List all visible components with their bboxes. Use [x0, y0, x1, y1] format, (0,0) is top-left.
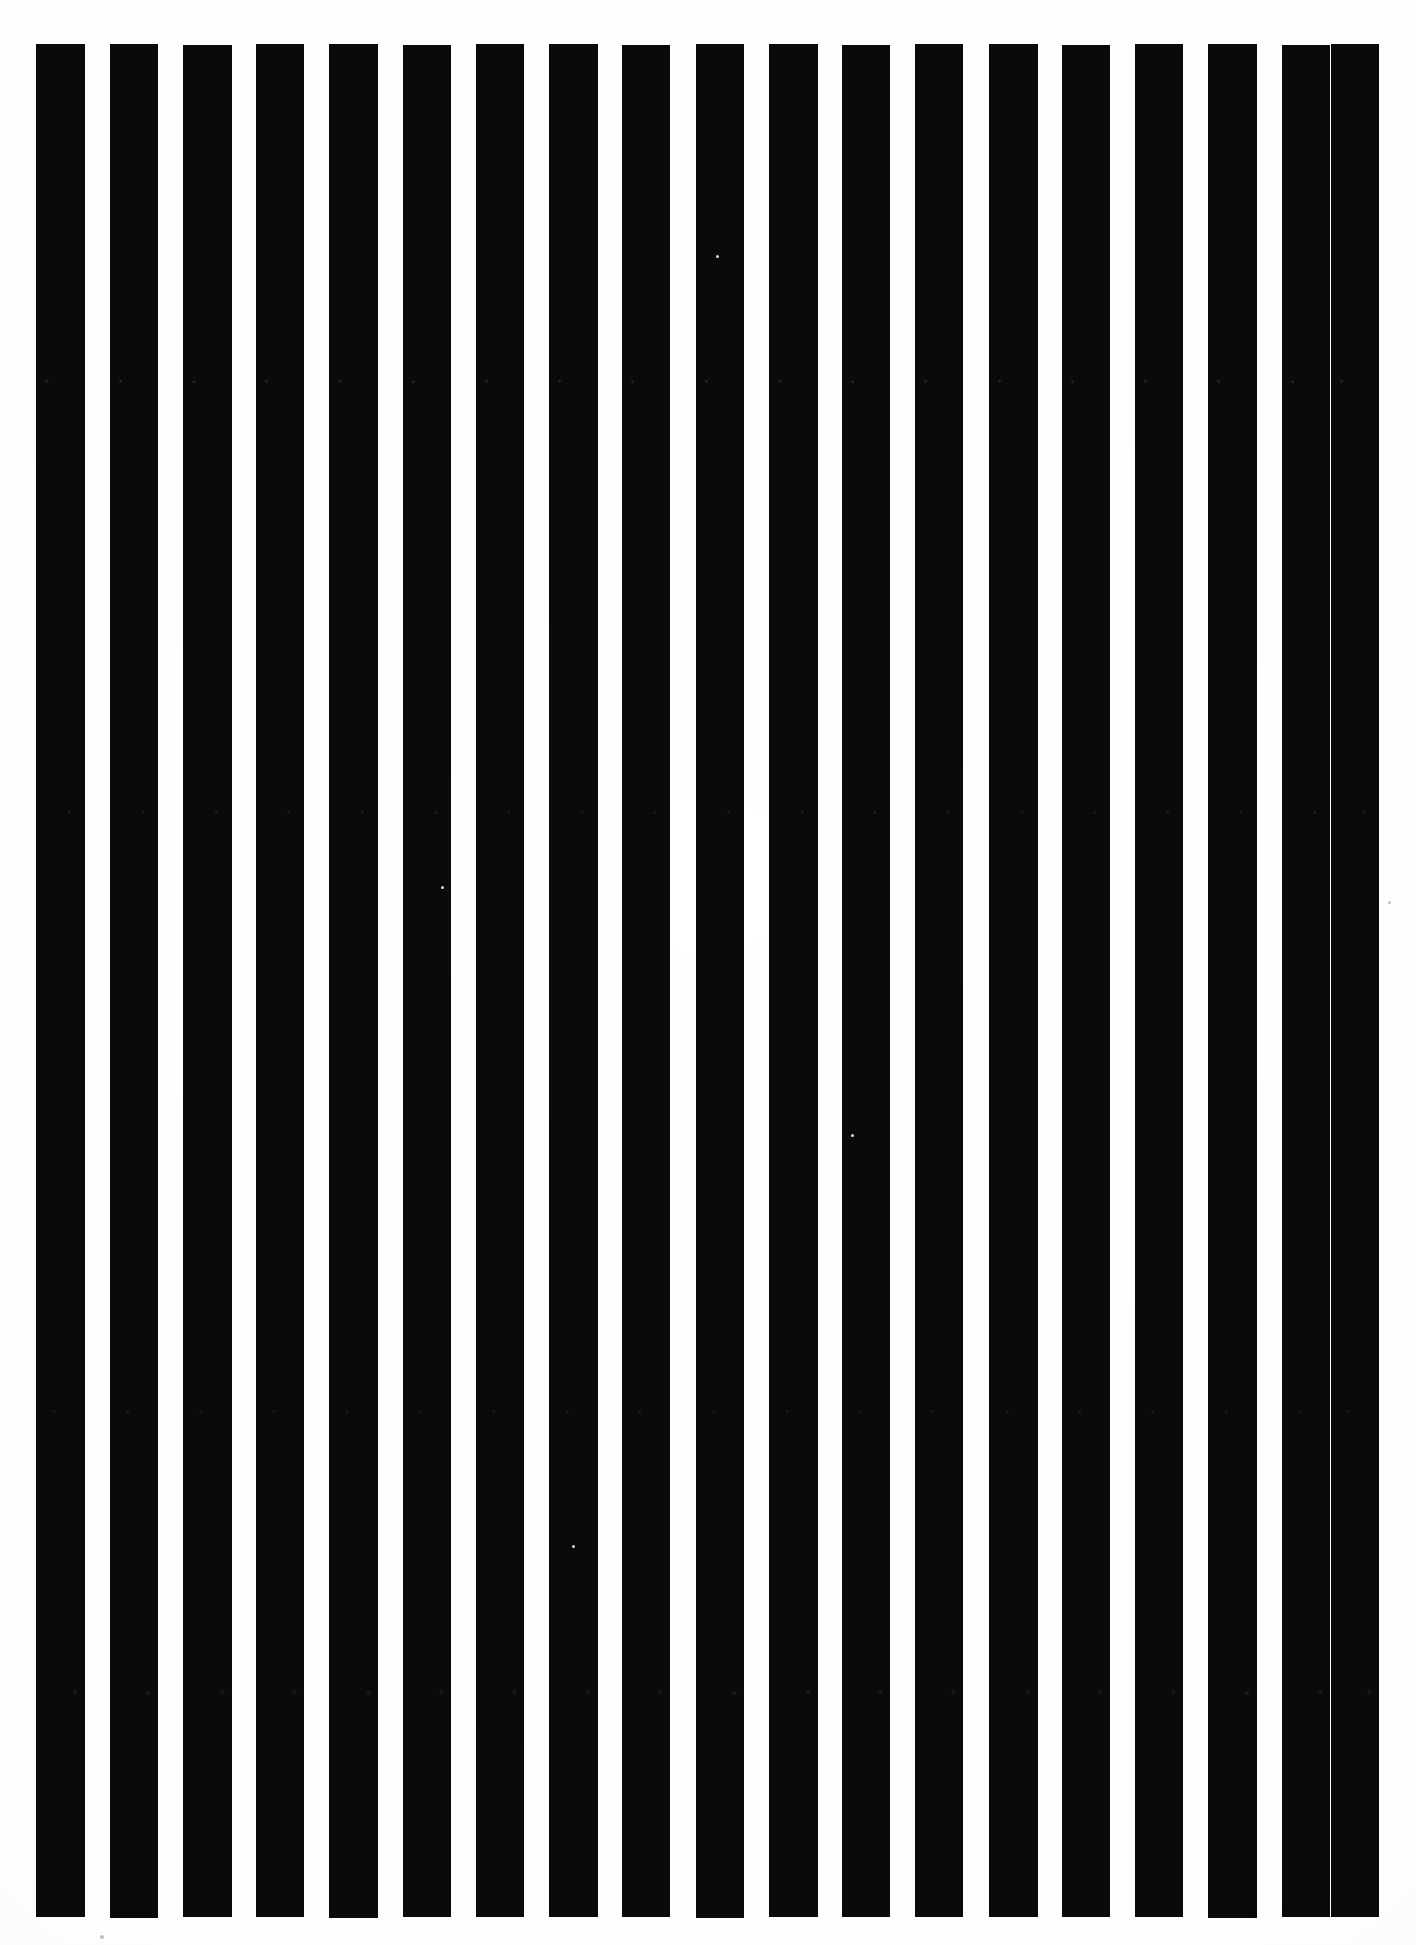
stripe-bar	[1135, 44, 1183, 1917]
stripe-bar	[989, 44, 1038, 1917]
stripe-bar	[1208, 44, 1257, 1918]
stripe-bar	[842, 45, 890, 1917]
stripe-bar	[110, 44, 158, 1918]
stripe-bar	[36, 44, 85, 1917]
stripe-bar	[622, 45, 670, 1917]
stripe-bar	[769, 44, 818, 1917]
stripe-field	[0, 0, 1416, 1945]
stripe-bar	[256, 44, 304, 1917]
stripe-bar	[403, 45, 451, 1917]
stripe-bar	[1062, 45, 1110, 1917]
stripe-bar	[549, 44, 598, 1917]
stripe-bar	[476, 44, 524, 1917]
stripe-bar	[915, 44, 963, 1917]
artwork-canvas	[0, 0, 1416, 1945]
stripe-bar	[1282, 45, 1330, 1917]
stripe-bar	[696, 44, 744, 1918]
stripe-bar	[329, 44, 378, 1918]
stripe-bar	[1331, 44, 1379, 1917]
stripe-bar	[183, 45, 232, 1917]
